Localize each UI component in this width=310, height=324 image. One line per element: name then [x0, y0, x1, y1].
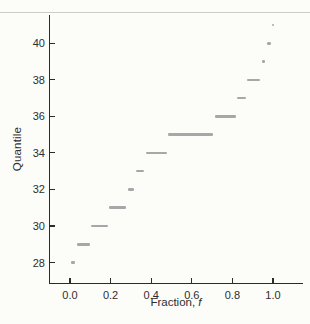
- quantile-run: [168, 133, 213, 136]
- quantile-run: [262, 60, 266, 63]
- y-tick: [50, 152, 56, 153]
- quantile-run: [215, 115, 236, 118]
- quantile-run: [272, 24, 275, 27]
- x-tick: [191, 278, 192, 284]
- y-tick: [50, 262, 56, 263]
- y-tick-label: 40: [19, 37, 45, 49]
- y-tick: [50, 189, 56, 190]
- quantile-run: [71, 261, 76, 264]
- y-tick: [50, 225, 56, 226]
- x-axis-title: Fraction, f: [49, 296, 303, 308]
- x-axis-line: [49, 283, 303, 284]
- y-tick-label: 28: [19, 257, 45, 269]
- y-tick-label: 36: [19, 110, 45, 122]
- y-tick: [50, 116, 56, 117]
- y-tick-label: 34: [19, 147, 45, 159]
- y-tick: [50, 79, 56, 80]
- x-tick: [272, 278, 273, 284]
- quantile-run: [267, 42, 272, 45]
- x-tick: [110, 278, 111, 284]
- y-axis-line: [49, 15, 50, 284]
- y-tick: [50, 43, 56, 44]
- quantile-run: [247, 79, 260, 82]
- x-axis-title-symbol: f: [198, 296, 201, 308]
- y-tick-label: 32: [19, 183, 45, 195]
- x-tick: [232, 278, 233, 284]
- y-tick-label: 30: [19, 220, 45, 232]
- quantile-run: [109, 206, 126, 209]
- quantile-run: [146, 152, 167, 155]
- x-tick: [151, 278, 152, 284]
- quantile-run: [77, 243, 90, 246]
- y-tick-label: 38: [19, 74, 45, 86]
- quantile-plot-figure: Quantile 0.00.20.40.60.81.02830323436384…: [0, 0, 310, 324]
- x-axis-title-text: Fraction,: [150, 296, 198, 308]
- x-tick: [69, 278, 70, 284]
- plot-area: 0.00.20.40.60.81.028303234363840: [0, 0, 310, 324]
- quantile-run: [91, 225, 108, 228]
- quantile-run: [136, 170, 145, 173]
- quantile-run: [128, 188, 135, 191]
- quantile-run: [237, 97, 246, 100]
